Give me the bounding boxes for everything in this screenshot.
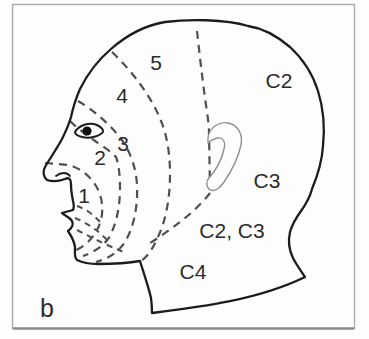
label-c2-c3: C2, C3 (199, 219, 264, 242)
label-c4: C4 (180, 260, 207, 283)
nostril-line (56, 173, 70, 176)
mouth-fan-line-3 (77, 230, 126, 253)
label-zone-1: 1 (78, 184, 90, 207)
label-c2: C2 (266, 69, 293, 92)
label-zone-4: 4 (116, 84, 128, 107)
head-dermatome-diagram: 5 4 3 2 1 C2 C3 C2, C3 C4 b (0, 0, 369, 339)
dermatome-head-figure: 5 4 3 2 1 C2 C3 C2, C3 C4 b (0, 0, 369, 339)
dermatome-boundary-5-c2 (197, 31, 210, 190)
region-labels: 5 4 3 2 1 C2 C3 C2, C3 C4 (78, 51, 292, 283)
label-zone-3: 3 (117, 132, 129, 155)
label-zone-5: 5 (150, 51, 162, 74)
label-c3: C3 (254, 169, 281, 192)
eye (75, 124, 103, 138)
pupil (82, 126, 91, 135)
panel-letter: b (40, 294, 54, 322)
label-zone-2: 2 (94, 146, 106, 169)
ear (207, 123, 242, 191)
